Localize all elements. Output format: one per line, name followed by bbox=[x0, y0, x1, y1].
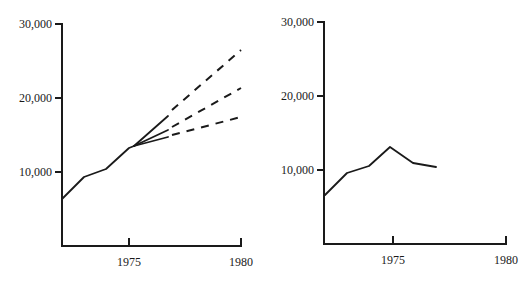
left-historical-line bbox=[62, 146, 134, 199]
left-y-label-20000: 20,000 bbox=[19, 91, 52, 105]
right-y-label-10000: 10,000 bbox=[281, 163, 314, 177]
right-y-label-30000: 30,000 bbox=[281, 15, 314, 29]
right-y-axis bbox=[317, 22, 506, 244]
right-x-label-1980: 1980 bbox=[494, 253, 518, 267]
right-chart: 30,000 20,000 10,000 1975 1980 bbox=[281, 15, 518, 267]
right-actual-line bbox=[325, 147, 436, 195]
left-y-label-10000: 10,000 bbox=[19, 165, 52, 179]
right-y-label-20000: 20,000 bbox=[281, 89, 314, 103]
left-chart: 30,000 20,000 10,000 1975 1980 bbox=[19, 17, 253, 269]
left-x-label-1975: 1975 bbox=[117, 255, 141, 269]
left-projection-mid-dashed bbox=[172, 88, 241, 127]
left-projection-high-dashed bbox=[172, 50, 241, 110]
right-x-label-1975: 1975 bbox=[381, 253, 405, 267]
left-y-label-30000: 30,000 bbox=[19, 17, 52, 31]
left-y-axis bbox=[55, 24, 241, 246]
left-projection-low-dashed bbox=[172, 117, 241, 135]
charts-canvas: 30,000 20,000 10,000 1975 1980 30,000 20… bbox=[0, 0, 531, 284]
left-x-label-1980: 1980 bbox=[229, 255, 253, 269]
